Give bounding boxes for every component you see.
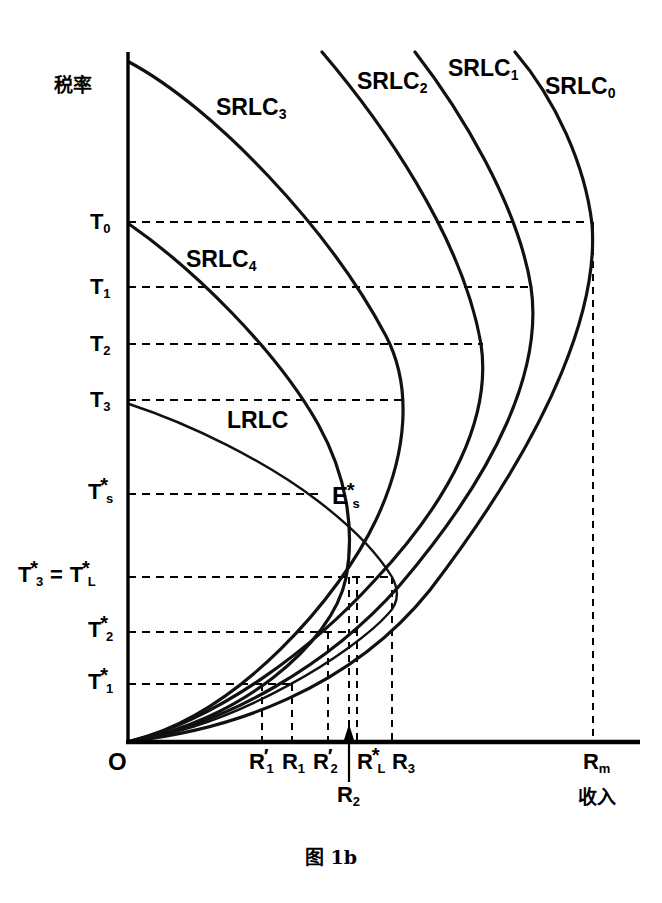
curve-label-srlc1-sub: 1	[511, 67, 519, 83]
xtick-label-Rm: Rm	[583, 751, 610, 773]
ytick-TLstar-letter: T	[70, 562, 83, 587]
curve-label-lrlc: LRLC	[227, 409, 288, 432]
curve-label-srlc2: SRLC2	[357, 70, 427, 93]
ytick-label-T3: T3	[90, 389, 110, 411]
curve-label-srlc4: SRLC4	[186, 248, 256, 271]
xtick-label-R2-below: R2	[337, 784, 360, 806]
ytick-Ts-star-glyph: *	[100, 474, 105, 496]
ytick-T2star-star-glyph: *	[100, 612, 105, 634]
annotation-Es-star-glyph: *	[347, 479, 352, 501]
xtick-R2prime-prime-glyph: ′	[328, 745, 330, 767]
figure-root: 税率 O SRLC3 SRLC2 SRLC1 SRLC0 SRLC4 LRLC …	[0, 0, 662, 903]
ytick-T2-letter: T	[90, 331, 103, 356]
curve-srlc2	[131, 52, 483, 741]
ytick-T1star-star-glyph: *	[100, 664, 105, 686]
ytick-T3star-sub: 3	[36, 574, 43, 589]
xtick-label-RL-star: R*L	[357, 751, 385, 773]
x-axis-title: 收入	[578, 788, 616, 807]
ytick-T3star-star-glyph: *	[30, 557, 35, 579]
ytick-T2star-sub: 2	[106, 629, 113, 644]
xtick-Rm-letter: R	[583, 749, 599, 774]
ytick-T2-sub: 2	[103, 343, 110, 358]
xtick-RLstar-letter: R	[357, 749, 373, 774]
xtick-label-R1: R1	[282, 751, 305, 773]
curve-label-srlc3-sub: 3	[279, 106, 287, 122]
curve-srlc1	[131, 52, 533, 741]
curve-label-srlc0-text: SRLC	[545, 73, 608, 99]
xtick-R2prime-letter: R	[313, 749, 329, 774]
xtick-R1prime-letter: R	[249, 749, 265, 774]
y-axis-title: 税率	[54, 76, 92, 95]
ytick-equals-sign: =	[50, 562, 63, 587]
ytick-T3-letter: T	[90, 387, 103, 412]
ytick-T1-letter: T	[90, 274, 103, 299]
ytick-label-T1: T1	[90, 276, 110, 298]
ytick-label-Ts-star: T*s	[88, 481, 113, 503]
xtick-R2-sub: 2	[353, 794, 360, 809]
xtick-RLstar-sub: L	[378, 761, 386, 776]
ytick-label-T2-star: T*2	[88, 619, 113, 641]
xtick-R1-sub: 1	[298, 761, 305, 776]
curve-label-srlc2-text: SRLC	[357, 68, 420, 94]
curve-label-srlc2-sub: 2	[420, 80, 428, 96]
ytick-T0-letter: T	[90, 209, 103, 234]
annotation-Es-sub: s	[353, 496, 360, 511]
curve-label-srlc3: SRLC3	[216, 96, 286, 119]
curve-label-srlc3-text: SRLC	[216, 94, 279, 120]
ytick-T1star-sub: 1	[106, 681, 113, 696]
ytick-label-T1-star: T*1	[88, 671, 113, 693]
ytick-T1-sub: 1	[103, 286, 110, 301]
figure-caption: 图 1b	[0, 848, 662, 867]
curve-label-srlc0: SRLC0	[545, 75, 615, 98]
xtick-R3-sub: 3	[408, 761, 415, 776]
xtick-label-R1-prime: R′1	[249, 751, 274, 773]
ytick-TLstar-sub: L	[88, 574, 96, 589]
annotation-Es-star: E*s	[332, 484, 360, 508]
annotation-Es-letter: E	[332, 482, 348, 509]
curve-label-srlc1-text: SRLC	[448, 55, 511, 81]
ytick-T3-sub: 3	[103, 399, 110, 414]
xtick-R3-letter: R	[392, 749, 408, 774]
xtick-R1prime-sub: 1	[267, 761, 274, 776]
xtick-RLstar-star-glyph: *	[372, 744, 377, 766]
origin-label: O	[108, 750, 127, 774]
ytick-TLstar-star-glyph: *	[82, 557, 87, 579]
curve-srlc4	[129, 224, 350, 741]
xtick-Rm-sub: m	[599, 761, 610, 776]
xtick-R2-letter: R	[337, 782, 353, 807]
xtick-R2prime-sub: 2	[331, 761, 338, 776]
xtick-R1prime-prime-glyph: ′	[264, 745, 266, 767]
curve-label-srlc4-text: SRLC	[186, 246, 249, 272]
ytick-Ts-sub: s	[106, 491, 113, 506]
xtick-R1-letter: R	[282, 749, 298, 774]
xtick-label-R2-prime: R′2	[313, 751, 338, 773]
curve-label-srlc1: SRLC1	[448, 57, 518, 80]
r2-pointer-arrow	[344, 724, 354, 782]
ytick-label-T2: T2	[90, 333, 110, 355]
curve-label-srlc4-sub: 4	[249, 258, 257, 274]
ytick-T0-sub: 0	[103, 221, 110, 236]
xtick-label-R3: R3	[392, 751, 415, 773]
curve-label-srlc0-sub: 0	[608, 85, 616, 101]
ytick-label-T0: T0	[90, 211, 110, 233]
ytick-label-T3-star-equals-TL-star: T*3=T*L	[18, 564, 96, 586]
